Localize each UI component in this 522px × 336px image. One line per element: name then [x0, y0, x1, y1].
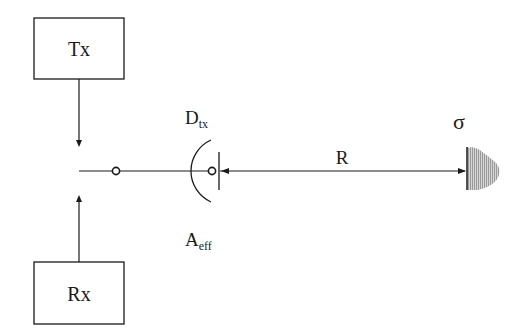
- target-icon: [467, 147, 500, 190]
- directivity-label: Dtx: [185, 107, 208, 131]
- rx-label: Rx: [67, 283, 90, 305]
- range-label: R: [336, 147, 349, 168]
- aperture-label: Aeff: [185, 229, 212, 253]
- range-arrow: [220, 168, 466, 174]
- tx-arrow: [76, 79, 82, 147]
- tx-block: Tx: [34, 18, 124, 79]
- rx-arrow: [76, 195, 82, 262]
- signal-line: [79, 167, 208, 174]
- rx-block: Rx: [34, 262, 124, 324]
- tx-label: Tx: [68, 38, 90, 60]
- diagram-canvas: Tx Rx Dtx Aeff R σ: [0, 0, 522, 336]
- feed-node-icon: [208, 167, 215, 174]
- junction-node-icon: [112, 167, 119, 174]
- rcs-label: σ: [453, 109, 465, 134]
